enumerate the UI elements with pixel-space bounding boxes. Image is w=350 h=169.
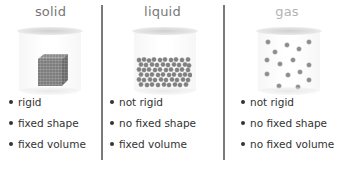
title-gas: gas xyxy=(224,4,350,19)
bullet-icon xyxy=(241,142,245,146)
bullet-icon xyxy=(110,100,114,104)
container-base-icon xyxy=(21,87,79,95)
property-item: fixed shape xyxy=(9,117,79,129)
column-solid: solid r xyxy=(0,0,101,169)
column-liquid: liquid not rigid no fixed shape fixed vo… xyxy=(102,0,223,169)
liquid-particles-icon xyxy=(136,57,192,88)
property-item: no fixed volume xyxy=(241,138,334,150)
container-gas xyxy=(256,27,322,93)
property-item: not rigid xyxy=(241,96,294,108)
property-item: fixed volume xyxy=(110,138,187,150)
bullet-icon xyxy=(241,100,245,104)
bullet-icon xyxy=(110,121,114,125)
title-liquid: liquid xyxy=(102,4,223,19)
bullet-icon xyxy=(9,142,13,146)
bullet-icon xyxy=(9,100,13,104)
container-base-icon xyxy=(260,87,318,95)
bullet-icon xyxy=(241,121,245,125)
container-solid xyxy=(17,27,83,93)
container-base-icon xyxy=(136,87,194,95)
column-gas: gas not rigid no fixed shape no fixed vo… xyxy=(224,0,350,169)
property-item: rigid xyxy=(9,96,41,108)
container-rim-icon xyxy=(17,27,83,35)
bullet-icon xyxy=(9,121,13,125)
gas-particles-icon xyxy=(256,27,322,93)
container-liquid xyxy=(132,27,198,93)
title-solid: solid xyxy=(0,4,101,19)
property-item: fixed volume xyxy=(9,138,86,150)
property-item: no fixed shape xyxy=(241,117,327,129)
property-item: not rigid xyxy=(110,96,163,108)
container-rim-icon xyxy=(132,27,198,35)
bullet-icon xyxy=(110,142,114,146)
solid-cube-icon xyxy=(36,53,70,87)
property-item: no fixed shape xyxy=(110,117,196,129)
